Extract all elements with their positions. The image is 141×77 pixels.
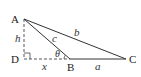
segment-b: [24, 19, 126, 59]
angle-arc-theta: [64, 55, 66, 59]
segment-label-a: a: [95, 60, 101, 72]
triangle-diagram: A D B C h c b x a θ: [0, 0, 141, 77]
point-label-b: B: [67, 61, 74, 73]
right-angle-marker: [24, 53, 30, 59]
segment-label-c: c: [52, 32, 57, 44]
point-label-c: C: [129, 53, 136, 65]
segment-label-x: x: [41, 60, 47, 72]
point-label-a: A: [11, 13, 19, 25]
angle-label-theta: θ: [55, 48, 60, 59]
segment-label-b: b: [74, 26, 80, 38]
segment-c: [24, 19, 70, 59]
segment-label-h: h: [15, 32, 21, 44]
point-label-d: D: [11, 53, 19, 65]
